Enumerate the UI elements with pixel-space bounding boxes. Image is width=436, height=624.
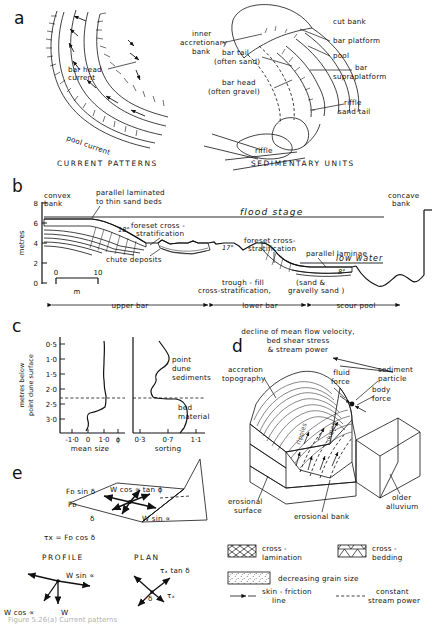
panel-e-label-delta: δ bbox=[90, 514, 95, 523]
panel-d-label-particle: particle bbox=[378, 374, 407, 383]
panel-a-letter: a bbox=[14, 8, 24, 28]
panel-c-label-material: material bbox=[178, 412, 210, 421]
panel-b-ann-thin-sand-beds: to thin sand beds bbox=[96, 197, 162, 206]
panel-d-label-sediment: sediment bbox=[378, 365, 413, 374]
panel-d-label-dunes: dunes bbox=[324, 421, 338, 443]
panel-e-profile: PROFILE ∝ W sin ∝ W cos ∝ W bbox=[4, 553, 95, 617]
panel-c-xtick-mean-0: 0 bbox=[86, 436, 90, 444]
legend-label-skin-friction-2: line bbox=[272, 596, 286, 605]
panel-b-scale-0: 0 bbox=[54, 269, 58, 277]
panel-a-label-sand-tail: sand tail bbox=[338, 107, 371, 116]
panel-c-mean-size-curve bbox=[86, 341, 106, 431]
panel-c-xtick-mean-phi: ϕ bbox=[116, 436, 121, 444]
panel-a-sedimentary-units-diagram: inner accretionary bank cut bank bar pla… bbox=[180, 5, 386, 170]
panel-e-plan-taux-tan: τₓ tan δ bbox=[160, 566, 190, 575]
panel-d-label-surface: surface bbox=[234, 506, 262, 515]
panel-e-label-fd: Fᴅ bbox=[68, 500, 77, 509]
panel-b-ytick-4: 4 bbox=[34, 240, 39, 248]
panel-a-label-bar-tail: bar tail bbox=[222, 48, 249, 57]
figure-caption-partial: Figure 5.26(a) Current patterns bbox=[8, 616, 117, 624]
panel-d-body-force-arrow bbox=[355, 406, 366, 412]
panel-b-ann-cross-strat: cross-stratification, bbox=[198, 286, 271, 295]
panel-b-scale-unit: m bbox=[74, 288, 81, 296]
panel-b-ann-chute: chute deposits bbox=[106, 255, 162, 264]
panel-e-label-fd-sin-delta: Fᴅ sin δ bbox=[66, 487, 95, 496]
panel-e-profile-alpha: ∝ bbox=[30, 571, 35, 580]
panel-b-label-concave-bank: bank bbox=[392, 199, 411, 208]
panel-a-current-patterns-diagram: bar head current pool current CURRENT PA… bbox=[46, 10, 168, 168]
panel-d-face-cross-lamination bbox=[250, 424, 286, 468]
panel-c: c 0·5 1·0 1·5 2·0 2·5 3·0 metres below p… bbox=[12, 316, 211, 453]
panel-a-label-often-gravel: (often gravel) bbox=[208, 87, 260, 96]
panel-b-dip-18: 18° bbox=[118, 226, 130, 234]
panel-b-y-axis: 8 6 4 2 0 metres bbox=[17, 200, 47, 288]
panel-e-subtitle-plan: PLAN bbox=[134, 553, 160, 562]
legend-swatch-cross-lamination bbox=[228, 545, 256, 557]
legend-label-constant-stream-power-1: constant bbox=[376, 587, 409, 596]
legend-label-cross-bedding-1: cross - bbox=[372, 544, 397, 553]
panel-d-label-erosional: erosional bbox=[228, 497, 263, 506]
panel-c-ytick-05: 0·5 bbox=[46, 341, 57, 349]
panel-c-sorting-plot: 0·3 0·7 1·1 sorting bbox=[133, 337, 205, 453]
panel-c-yaxis-label-2: point dune surface bbox=[27, 354, 35, 416]
panel-a-label-inner: inner bbox=[192, 29, 212, 38]
figure-svg: a bbox=[0, 0, 436, 624]
panel-c-mean-size-plot: -1·0 0 1·0 ϕ mean size bbox=[60, 341, 125, 453]
panel-b-yaxis-label: metres bbox=[17, 230, 26, 255]
panel-b-ytick-8: 8 bbox=[34, 200, 38, 208]
panel-e-label-w-sin-alpha: W sin ∝ bbox=[142, 514, 171, 523]
panel-a-label-cut-bank: cut bank bbox=[333, 17, 367, 26]
panel-b-dip-17: 17° bbox=[222, 244, 234, 252]
panel-d-label-older: older bbox=[392, 493, 411, 502]
panel-a-label-bar-platform: bar platform bbox=[333, 36, 380, 45]
legend-swatch-cross-bedding bbox=[338, 545, 366, 557]
panel-d-older-alluvium bbox=[356, 418, 420, 498]
panel-e-plan: PLAN τₓ tan δ δ τₓ bbox=[134, 553, 190, 606]
panel-a-label-pool-current: pool current bbox=[65, 133, 111, 156]
legend-label-cross-lamination-2: lamination bbox=[262, 553, 302, 562]
panel-a-label-bank: bank bbox=[192, 47, 211, 56]
panel-e-plan-delta: δ bbox=[148, 594, 153, 603]
legend-swatch-decreasing-grain-size bbox=[228, 572, 270, 584]
panel-e-label-taux-eq: τx = Fᴅ cos δ bbox=[44, 533, 95, 542]
panel-b: b 8 6 4 2 0 metres flood stage low water bbox=[12, 176, 432, 310]
panel-c-letter: c bbox=[12, 316, 21, 336]
panel-d-label-body: body bbox=[372, 385, 391, 394]
panel-d-label-erosional-bank: erosional bank bbox=[294, 512, 350, 521]
panel-b-ann-strat2: stratification bbox=[248, 244, 296, 253]
panel-a-label-riffle2: riffle bbox=[255, 146, 273, 155]
panel-d-face-grain bbox=[250, 444, 286, 488]
panel-b-dip-8: 8° bbox=[338, 268, 346, 276]
panel-d-label-ripples: ripples bbox=[294, 421, 309, 445]
panel-c-label-sediments: sediments bbox=[172, 373, 211, 382]
panel-a-label-often-sand: (often sand) bbox=[214, 57, 260, 66]
panel-a-label-current: current bbox=[68, 73, 95, 82]
panel-b-ytick-2: 2 bbox=[34, 260, 38, 268]
panel-b-ytick-0: 0 bbox=[34, 280, 38, 288]
figure-root: a bbox=[0, 0, 436, 624]
panel-a: a bbox=[14, 5, 386, 170]
panel-c-ytick-25: 2·5 bbox=[46, 401, 57, 409]
panel-d-erosional-surface-slab bbox=[250, 466, 356, 504]
panel-b-ann-gravelly-sand: gravelly sand ) bbox=[288, 286, 345, 295]
panel-d-ann-line1: decline of mean flow velocity, bbox=[241, 327, 355, 336]
panel-e: e Fᴅ sin δ W cos ∝ tan ϕ Fᴅ δ W sin ∝ τx… bbox=[4, 459, 207, 617]
panel-d-label-alluvium: alluvium bbox=[386, 502, 418, 511]
panel-c-xtick-mean--10: -1·0 bbox=[65, 436, 79, 444]
panel-b-scale-bar: 0 10 m bbox=[54, 269, 103, 296]
panel-c-ytick-20: 2·0 bbox=[46, 386, 57, 394]
panel-a-label-accretionary: accretionary bbox=[180, 38, 228, 47]
panel-c-yaxis-label-1: metres below bbox=[18, 363, 26, 408]
panel-d-slipface bbox=[286, 388, 352, 478]
panel-d-label-topography: topography bbox=[222, 374, 266, 383]
panel-e-plan-taux: τₓ bbox=[167, 591, 175, 600]
panel-c-label-bed: bed bbox=[178, 403, 192, 412]
legend-label-cross-lamination-1: cross - bbox=[262, 544, 287, 553]
panel-e-profile-w-sin: W sin ∝ bbox=[66, 571, 95, 580]
legend-label-constant-stream-power-2: stream power bbox=[368, 596, 420, 605]
panel-b-letter: b bbox=[12, 176, 23, 196]
panel-b-ytick-6: 6 bbox=[34, 220, 39, 228]
panel-d-letter: d bbox=[232, 336, 243, 356]
legend-label-skin-friction-1: skin - friction bbox=[262, 587, 312, 596]
panel-e-force-origin bbox=[128, 500, 132, 504]
